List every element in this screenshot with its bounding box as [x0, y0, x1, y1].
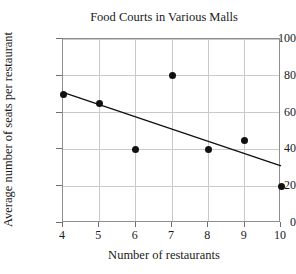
x-axis-label: Number of restaurants	[40, 248, 288, 263]
x-axis-tick-label: 8	[192, 229, 222, 241]
data-point	[169, 72, 176, 79]
data-point	[132, 146, 139, 153]
x-axis-tick-label: 6	[120, 229, 150, 241]
x-axis-tick-label: 9	[229, 229, 259, 241]
x-axis-tick-label: 7	[156, 229, 186, 241]
data-point	[241, 137, 248, 144]
data-point	[278, 183, 285, 190]
data-point	[96, 100, 103, 107]
plot-area	[62, 38, 280, 222]
x-axis-tick-label: 4	[47, 229, 77, 241]
y-axis-label-container: Average number of seats per restaurant	[0, 0, 16, 274]
chart-title: Food Courts in Various Malls	[40, 10, 288, 25]
x-axis-tick-label: 5	[83, 229, 113, 241]
trend-line	[63, 39, 281, 223]
data-point	[205, 146, 212, 153]
x-axis-tick-label: 10	[265, 229, 295, 241]
chart-figure: Food Courts in Various Malls Average num…	[0, 0, 296, 274]
data-point	[60, 91, 67, 98]
data-layer	[63, 39, 279, 221]
y-axis-label: Average number of seats per restaurant	[1, 6, 16, 254]
